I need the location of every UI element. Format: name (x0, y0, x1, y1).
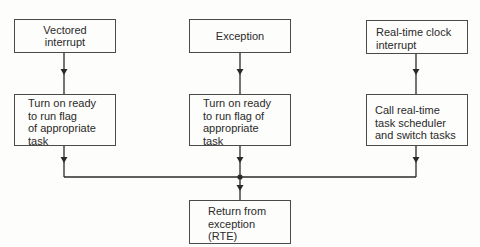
node-label: Real-time clock interrupt (376, 26, 467, 51)
node-label: Return from exception (RTE) (208, 205, 290, 243)
arrowhead-icon (237, 69, 244, 75)
node-return-from-exception: Return from exception (RTE) (189, 200, 291, 244)
arrowhead-icon (413, 69, 420, 75)
arrowhead-icon (237, 185, 244, 191)
node-label: Call real-time task scheduler and switch… (375, 104, 467, 142)
arrowhead-icon (61, 69, 68, 75)
node-ready-flag-1: Turn on ready to run flag of appropriate… (14, 94, 116, 146)
node-label: Turn on ready to run flag of appropriate… (203, 97, 290, 147)
node-scheduler: Call real-time task scheduler and switch… (366, 94, 468, 146)
junction-dot-icon (237, 174, 242, 179)
node-label: Exception (216, 30, 264, 43)
arrowhead-icon (61, 157, 68, 163)
arrowhead-icon (413, 157, 420, 163)
node-label: Vectored interrupt (43, 24, 86, 49)
node-ready-flag-2: Turn on ready to run flag of appropriate… (189, 94, 291, 146)
node-vectored-interrupt: Vectored interrupt (14, 19, 116, 53)
node-label: Turn on ready to run flag of appropriate… (28, 97, 115, 147)
node-rtc-interrupt: Real-time clock interrupt (366, 20, 468, 54)
arrowhead-icon (237, 157, 244, 163)
node-exception: Exception (189, 19, 291, 53)
